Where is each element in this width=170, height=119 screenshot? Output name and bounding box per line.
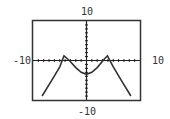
y-min-label: -10 — [78, 107, 96, 117]
x-max-label: 10 — [152, 56, 164, 66]
x-min-label: -10 — [13, 56, 31, 66]
axes — [33, 21, 140, 100]
y-max-label: 10 — [81, 7, 93, 17]
